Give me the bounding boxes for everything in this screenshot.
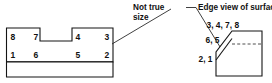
top-view-lower-band [7, 62, 114, 77]
not-true-size-label-line1: Not true [133, 3, 165, 12]
top-view-vertex-1: 1 [11, 50, 16, 60]
edge-view-label-bottom-group: 2, 1 [199, 54, 213, 64]
top-view-vertex-4: 4 [76, 32, 81, 42]
drawing-canvas: 8 7 4 3 1 6 5 2 3, 4, 7, 8 6, 5 2, 1 Not… [0, 0, 272, 83]
top-view-vertex-3: 3 [105, 32, 110, 42]
top-view-vertex-5: 5 [76, 50, 81, 60]
edge-view-label-top-group: 3, 4, 7, 8 [207, 20, 240, 30]
not-true-size-label-line2: size [133, 13, 149, 22]
top-view-outline [7, 28, 114, 62]
edge-view-outline [216, 31, 262, 76]
edge-view-of-surface-label: Edge view of surface [198, 3, 272, 12]
top-view-vertex-8: 8 [11, 32, 16, 42]
top-view-vertex-6: 6 [34, 50, 39, 60]
top-view-vertex-7: 7 [34, 32, 39, 42]
edge-view-figure [216, 31, 263, 76]
technical-drawing: 8 7 4 3 1 6 5 2 3, 4, 7, 8 6, 5 2, 1 Not… [0, 0, 272, 83]
top-view-figure [7, 28, 114, 77]
edge-view-label-mid-group: 6, 5 [206, 35, 220, 45]
top-view-vertex-2: 2 [105, 50, 110, 60]
